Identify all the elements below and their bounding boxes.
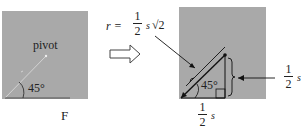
left-angle-label: 45° xyxy=(28,82,45,94)
r-equation-fraction: 1 2 xyxy=(133,10,142,37)
force-label: F xyxy=(61,109,68,122)
vertical-leg-fraction: 1 2 xyxy=(284,63,293,90)
horizontal-leg-s: s xyxy=(211,111,215,121)
hollow-right-arrow-icon xyxy=(110,45,140,63)
horizontal-leg-fraction: 1 2 xyxy=(198,101,207,128)
r-equation-lhs: r = xyxy=(106,20,122,32)
r-equation-sqrt: √2 xyxy=(152,19,165,31)
right-angle-label: 45° xyxy=(201,79,218,91)
pivot-label: pivot xyxy=(33,39,58,51)
vertical-leg-s: s xyxy=(297,73,301,83)
r-equation-s: s xyxy=(146,21,150,31)
